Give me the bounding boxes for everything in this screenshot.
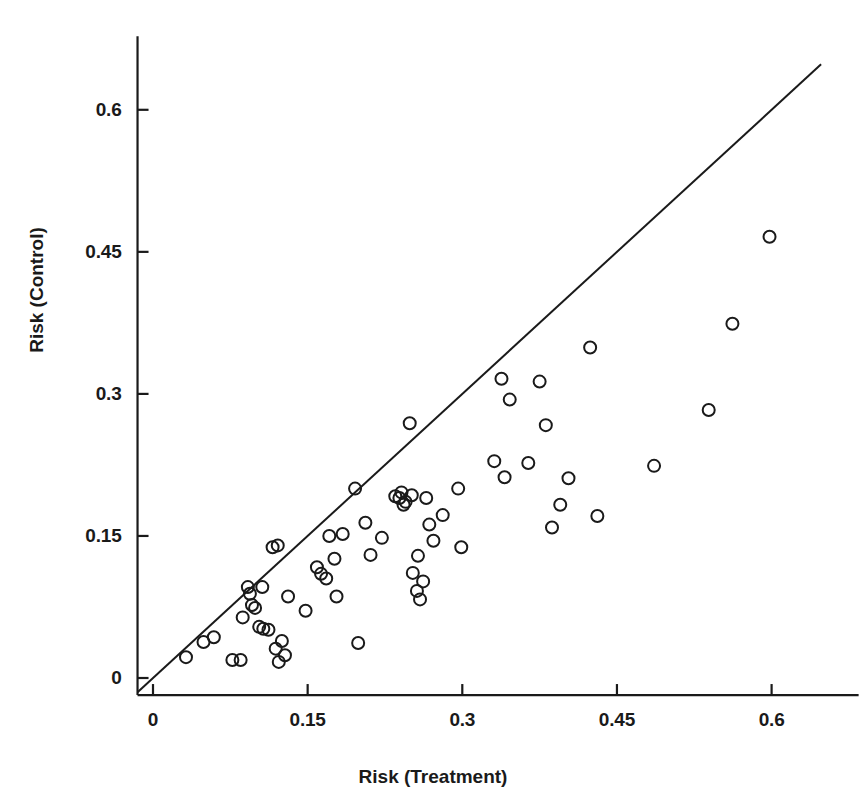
data-point <box>591 510 603 522</box>
x-tick-label: 0.45 <box>599 709 635 731</box>
data-point <box>352 637 364 649</box>
data-point <box>323 530 335 542</box>
data-point <box>237 611 249 623</box>
identity-line <box>138 64 822 692</box>
x-tick-label: 0.15 <box>290 709 326 731</box>
scatter-plot-figure: 00.150.30.450.6 00.150.30.450.6 Risk (Co… <box>0 0 866 809</box>
data-point <box>417 575 429 587</box>
data-point <box>359 517 371 529</box>
x-axis-title: Risk (Treatment) <box>0 766 866 788</box>
data-point <box>337 528 349 540</box>
x-tick-label: 0 <box>148 709 158 731</box>
y-tick-label: 0.15 <box>0 525 122 547</box>
data-point <box>423 519 435 531</box>
data-point <box>180 651 192 663</box>
data-point <box>504 394 516 406</box>
data-point <box>764 231 776 243</box>
data-point <box>404 417 416 429</box>
data-point <box>300 605 312 617</box>
data-point <box>365 549 377 561</box>
data-point <box>328 553 340 565</box>
data-point <box>648 460 660 472</box>
data-point <box>495 373 507 385</box>
y-tick-label: 0 <box>0 667 122 689</box>
y-axis-title: Risk (Control) <box>26 160 48 420</box>
y-tick-label: 0.45 <box>0 241 122 263</box>
data-point <box>584 341 596 353</box>
data-point <box>540 419 552 431</box>
data-point <box>249 602 261 614</box>
data-point <box>455 541 467 553</box>
data-point <box>282 591 294 603</box>
x-tick-label: 0.3 <box>449 709 475 731</box>
data-point <box>407 567 419 579</box>
data-point <box>554 499 566 511</box>
data-point <box>488 455 500 467</box>
data-point <box>562 472 574 484</box>
x-tick-label: 0.6 <box>759 709 785 731</box>
data-point <box>546 521 558 533</box>
y-tick-label: 0.3 <box>0 383 122 405</box>
data-point <box>522 457 534 469</box>
data-point <box>376 532 388 544</box>
data-point <box>412 550 424 562</box>
plot-canvas <box>0 0 866 809</box>
data-point <box>703 404 715 416</box>
data-point <box>452 483 464 495</box>
axes <box>138 36 859 695</box>
data-point <box>235 654 247 666</box>
data-point <box>246 599 258 611</box>
data-point <box>499 471 511 483</box>
data-point <box>420 492 432 504</box>
y-tick-label: 0.6 <box>0 99 122 121</box>
data-point <box>256 581 268 593</box>
data-point <box>331 591 343 603</box>
data-points <box>180 231 776 668</box>
identity-reference-line <box>138 64 822 692</box>
data-point <box>208 631 220 643</box>
data-point <box>437 509 449 521</box>
data-point <box>427 535 439 547</box>
data-point <box>534 376 546 388</box>
data-point <box>276 635 288 647</box>
data-point <box>726 318 738 330</box>
